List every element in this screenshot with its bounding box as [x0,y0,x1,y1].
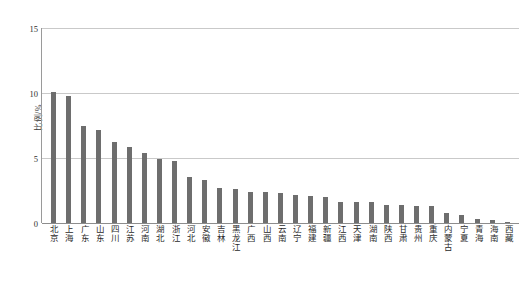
x-tick-label: 天津 [351,225,361,252]
x-tick-label: 云南 [275,225,285,252]
x-label-slot: 江西 [333,225,348,252]
bar [96,130,101,223]
x-label-slot: 云南 [272,225,287,252]
x-label-slot: 内蒙古 [439,225,454,252]
bar [81,126,86,223]
x-tick-label: 福建 [305,225,315,252]
bar [112,142,117,223]
x-tick-label: 江苏 [124,225,134,252]
bar-slot [228,28,243,223]
x-label-slot: 宁夏 [454,225,469,252]
x-tick-label: 湖南 [366,225,376,252]
bar-slot [500,28,515,223]
bar [66,96,71,223]
bar [293,195,298,223]
x-tick-label: 甘肃 [396,225,406,252]
bar-slot [107,28,122,223]
bar-slot [61,28,76,223]
x-label-slot: 海南 [485,225,500,252]
bar [278,193,283,223]
bar-chart: 比例/% 051015 北京上海广东山东四川江苏河南湖北浙江河北安徽吉林黑龙江广… [0,0,525,282]
x-tick-label: 青海 [472,225,482,252]
x-label-slot: 山西 [257,225,272,252]
bar-slot [333,28,348,223]
bar-slot [167,28,182,223]
bar [248,192,253,223]
x-tick-label: 重庆 [427,225,437,252]
bar-slot [424,28,439,223]
bar-slot [46,28,61,223]
x-tick-label: 河北 [184,225,194,252]
x-tick-label: 江西 [336,225,346,252]
bar-slot [379,28,394,223]
bar [459,215,464,223]
plot-area: 051015 [41,28,519,223]
x-tick-label: 湖北 [154,225,164,252]
y-tick-label: 0 [34,219,38,229]
x-tick-label: 山东 [93,225,103,252]
bar [429,206,434,223]
x-label-slot: 贵州 [409,225,424,252]
bar-slot [454,28,469,223]
x-label-slot: 新疆 [318,225,333,252]
bar [323,197,328,223]
x-label-slot: 福建 [303,225,318,252]
x-label-slot: 山东 [90,225,105,252]
x-tick-label: 上海 [63,225,73,252]
bar-slot [258,28,273,223]
x-label-slot: 陕西 [378,225,393,252]
bar [369,202,374,223]
x-tick-label: 浙江 [169,225,179,252]
bar-slot [318,28,333,223]
bar-slot [470,28,485,223]
x-label-slot: 吉林 [212,225,227,252]
x-label-slot: 黑龙江 [227,225,242,252]
gridline-0: 0 [42,223,519,224]
bar-slot [364,28,379,223]
x-tick-label: 广东 [78,225,88,252]
bar-slot [91,28,106,223]
x-label-slot: 河北 [181,225,196,252]
x-label-slot: 辽宁 [288,225,303,252]
bar [233,189,238,223]
x-label-slot: 江苏 [121,225,136,252]
x-tick-label: 陕西 [381,225,391,252]
bar-slot [303,28,318,223]
x-tick-label: 辽宁 [290,225,300,252]
bar [263,192,268,223]
x-label-slot: 重庆 [424,225,439,252]
bar [338,202,343,223]
bar [505,222,510,223]
x-tick-label: 广西 [245,225,255,252]
bar [142,153,147,223]
x-label-slot: 西藏 [500,225,515,252]
x-tick-label: 北京 [48,225,58,252]
bar [414,206,419,223]
bar-slot [349,28,364,223]
bar [172,161,177,223]
bar-slot [197,28,212,223]
x-label-slot: 上海 [60,225,75,252]
bar [399,205,404,223]
bar-slot [485,28,500,223]
x-label-slot: 甘肃 [394,225,409,252]
bar [157,159,162,223]
x-tick-label: 山西 [260,225,270,252]
bar [51,92,56,223]
bar-slot [182,28,197,223]
bar [202,180,207,223]
bar-slot [122,28,137,223]
x-tick-label: 海南 [487,225,497,252]
x-tick-label: 安徽 [199,225,209,252]
x-label-slot: 河南 [136,225,151,252]
y-tick-label: 10 [30,89,39,99]
x-label-slot: 湖北 [151,225,166,252]
x-tick-label: 黑龙江 [230,225,240,252]
x-axis-labels: 北京上海广东山东四川江苏河南湖北浙江河北安徽吉林黑龙江广西山西云南辽宁福建新疆江… [41,225,519,252]
bar-slot [409,28,424,223]
x-tick-label: 宁夏 [457,225,467,252]
bar [127,147,132,223]
bar-slot [212,28,227,223]
x-tick-label: 河南 [139,225,149,252]
y-tick-label: 5 [34,154,38,164]
